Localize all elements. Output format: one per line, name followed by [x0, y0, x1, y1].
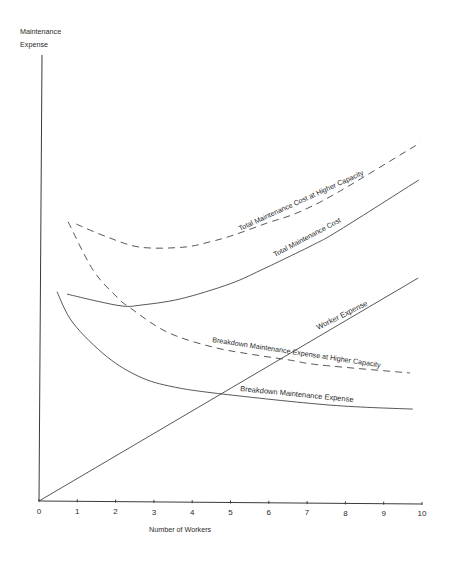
y-axis-title-line-1: Maintenance [20, 27, 61, 36]
x-tick-label: 5 [228, 508, 233, 517]
chart-background [0, 0, 450, 562]
x-tick-label: 2 [113, 507, 118, 516]
x-tick-label: 8 [343, 509, 348, 518]
x-tick-label: 10 [418, 509, 427, 518]
x-tick-label: 1 [75, 507, 80, 516]
chart: Maintenance Expense 012345678910 Number … [0, 0, 450, 562]
x-tick-label: 9 [381, 509, 386, 518]
x-tick-label: 6 [267, 508, 272, 517]
x-tick-label: 3 [152, 508, 157, 517]
x-tick-label: 4 [190, 508, 195, 517]
x-tick-label: 0 [37, 507, 42, 516]
x-tick-label: 7 [305, 508, 310, 517]
y-axis-title-line-2: Expense [20, 40, 48, 49]
x-axis-title: Number of Workers [149, 525, 212, 534]
